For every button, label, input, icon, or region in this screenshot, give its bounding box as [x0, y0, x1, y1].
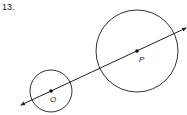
line-op	[21, 28, 186, 105]
label-p: P	[139, 55, 145, 64]
geometry-diagram: O P	[0, 0, 187, 115]
label-o: O	[50, 95, 56, 104]
point-p	[135, 49, 139, 53]
point-o	[49, 89, 53, 93]
